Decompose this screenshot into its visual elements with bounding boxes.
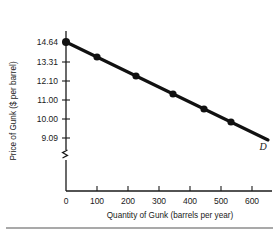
y-axis-title: Price of Gunk ($ per barrel)	[9, 61, 18, 160]
data-point	[93, 53, 100, 60]
data-point	[227, 118, 234, 125]
chart-canvas: 14.64 13.31 12.10 11.00 10.00 9.09 0 100…	[0, 0, 279, 231]
x-tick-label-6: 600	[245, 196, 259, 206]
y-tick-label-1: 13.31	[37, 57, 59, 67]
x-tick-label-4: 400	[183, 196, 197, 206]
data-point	[200, 105, 207, 112]
demand-curve-figure: 14.64 13.31 12.10 11.00 10.00 9.09 0 100…	[0, 0, 279, 231]
demand-curve-label: D	[258, 141, 267, 152]
x-tick-label-2: 200	[121, 196, 135, 206]
y-tick-label-4: 10.00	[37, 114, 59, 124]
y-tick-label-3: 11.00	[37, 95, 58, 105]
x-tick-label-0: 0	[64, 196, 69, 206]
data-point	[169, 90, 176, 97]
y-tick-label-5: 9.09	[41, 133, 58, 143]
x-tick-label-3: 300	[152, 196, 166, 206]
y-tick-label-0: 14.64	[37, 37, 59, 47]
x-tick-label-5: 500	[214, 196, 228, 206]
y-tick-label-2: 12.10	[37, 76, 59, 86]
data-point	[62, 38, 70, 46]
x-axis-title: Quantity of Gunk (barrels per year)	[107, 211, 234, 220]
x-axis-ticks	[97, 186, 252, 191]
x-tick-label-1: 100	[90, 196, 104, 206]
data-point	[132, 72, 139, 79]
y-axis-break-icon	[63, 150, 68, 158]
